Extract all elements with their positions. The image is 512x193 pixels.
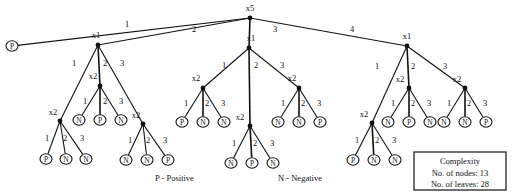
leaf-class-label: N (275, 118, 281, 127)
internal-node[interactable]: x2 (49, 107, 63, 123)
leaf-class-label: N (441, 118, 447, 127)
leaf-node[interactable]: P (40, 154, 52, 164)
leaf-class-label: N (392, 156, 398, 165)
leaf-node[interactable]: N (115, 115, 127, 125)
edge-labels-layer: 1234123123123123123123123123123123123123 (45, 19, 487, 148)
tree-edge (407, 46, 409, 88)
leaf-node[interactable]: P (176, 117, 188, 127)
leaf-node[interactable]: P (162, 155, 174, 165)
edge-label: 1 (447, 98, 451, 108)
tree-edge (249, 48, 250, 126)
leaf-class-label: P (318, 118, 322, 127)
node-dot (96, 43, 101, 48)
internal-node[interactable]: x1 (92, 30, 101, 47)
edge-label: 3 (280, 60, 284, 70)
internal-node[interactable]: x2 (132, 110, 146, 126)
edge-label: 2 (103, 58, 107, 68)
node-attribute-label: x1 (403, 31, 412, 41)
node-attribute-label: x2 (288, 73, 297, 83)
complexity-box-title: Complexity (440, 156, 481, 166)
tree-edge (48, 121, 60, 154)
leaf-node[interactable]: N (80, 154, 92, 164)
edge-label: 1 (125, 19, 129, 29)
leaf-node[interactable]: N (267, 158, 279, 168)
node-dot (247, 46, 252, 51)
edge-label: 2 (467, 98, 471, 108)
node-attribute-label: x1 (247, 33, 256, 43)
leaf-class-label: N (63, 155, 69, 164)
leaf-class-label: N (76, 116, 82, 125)
leaf-class-label: P (407, 118, 411, 127)
leaf-class-label: P (180, 118, 184, 127)
leaf-class-label: N (462, 118, 468, 127)
edge-label: 1 (83, 96, 87, 106)
leaf-node[interactable]: P (246, 158, 258, 168)
internal-node[interactable]: x5 (246, 3, 255, 20)
leaf-node[interactable]: N (197, 117, 209, 127)
tree-edge (250, 126, 252, 157)
leaf-node[interactable]: P (6, 41, 18, 51)
leaf-node[interactable]: N (438, 117, 450, 127)
edge-label: 3 (163, 135, 167, 145)
leaf-node[interactable]: N (382, 117, 394, 127)
edge-label: 3 (483, 98, 487, 108)
tree-edge (98, 18, 250, 45)
internal-node[interactable]: x2 (453, 74, 468, 90)
edge-label: 2 (411, 61, 415, 71)
leaf-class-label: P (250, 159, 254, 168)
leaf-node[interactable]: N (293, 117, 305, 127)
leaf-class-label: N (200, 118, 206, 127)
internal-node[interactable]: x2 (192, 73, 206, 90)
leaf-class-label: P (44, 155, 48, 164)
edge-label: 2 (146, 135, 150, 145)
edge-label: 3 (443, 61, 447, 71)
leaf-class-label: P (484, 118, 488, 127)
node-dot (141, 122, 146, 127)
leaf-node[interactable]: P (94, 115, 106, 125)
tree-edge (98, 45, 100, 86)
leaf-node[interactable]: N (120, 155, 132, 165)
node-attribute-label: x1 (92, 30, 101, 40)
leaf-node[interactable]: P (403, 117, 415, 127)
node-attribute-label: x2 (89, 71, 98, 81)
decision-tree-figure: 1234123123123123123123123123123123123123… (0, 0, 512, 193)
internal-node[interactable]: x2 (288, 73, 302, 90)
leaf-node[interactable]: N (60, 154, 72, 164)
leaf-class-label: N (221, 118, 227, 127)
node-dot (407, 86, 412, 91)
leaf-node[interactable]: P (480, 117, 492, 127)
edge-label: 1 (281, 98, 285, 108)
node-attribute-label: x5 (246, 3, 255, 13)
leaf-node[interactable]: P (314, 117, 326, 127)
leaf-node[interactable]: N (459, 117, 471, 127)
leaf-node[interactable]: P (347, 155, 359, 165)
leaf-node[interactable]: N (218, 117, 230, 127)
leaf-node[interactable]: N (272, 117, 284, 127)
node-attribute-label: x2 (192, 73, 201, 83)
complexity-nodes-count: No. of nodes: 13 (432, 168, 489, 178)
internal-node[interactable]: x1 (247, 33, 256, 50)
edge-label: 1 (222, 60, 226, 70)
internal-node[interactable]: x2 (360, 109, 375, 125)
node-dot (98, 84, 103, 89)
leaf-node[interactable]: N (368, 155, 380, 165)
leaf-node[interactable]: N (141, 155, 153, 165)
edge-label: 2 (103, 96, 107, 106)
leaf-node[interactable]: N (225, 158, 237, 168)
node-dot (248, 124, 253, 129)
edge-label: 3 (270, 138, 274, 148)
node-attribute-label: x2 (236, 112, 245, 122)
tree-edge (60, 45, 98, 121)
leaf-node[interactable]: N (73, 115, 85, 125)
leaf-class-label: P (98, 116, 102, 125)
edge-label: 3 (427, 98, 431, 108)
tree-edge (372, 123, 374, 154)
leaf-class-label: P (10, 42, 14, 51)
leaf-node[interactable]: N (389, 155, 401, 165)
leaf-node[interactable]: N (424, 117, 436, 127)
node-attribute-label: x2 (453, 74, 462, 84)
edge-label: 1 (391, 98, 395, 108)
edge-label: 1 (375, 61, 379, 71)
edge-label: 2 (253, 138, 257, 148)
leaf-class-label: N (83, 155, 89, 164)
